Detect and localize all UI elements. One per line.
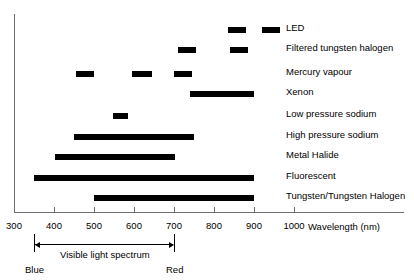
x-axis-tick <box>214 207 215 213</box>
x-axis-tick <box>174 207 175 213</box>
series-label: Metal Halide <box>286 149 339 160</box>
x-axis-tick-label: 700 <box>154 221 194 231</box>
x-axis-tick-label: 400 <box>34 221 74 231</box>
range-bar <box>74 134 194 140</box>
series-label: Tungsten/Tungsten Halogen <box>286 190 405 201</box>
series-label: Fluorescent <box>286 170 336 181</box>
range-bar <box>55 154 175 160</box>
range-bar <box>190 91 254 97</box>
x-axis-tick <box>254 207 255 213</box>
spectrum-blue-label: Blue <box>25 265 44 275</box>
x-axis-line <box>14 212 404 213</box>
x-axis-tick-label: 300 <box>0 221 34 231</box>
range-bar <box>94 195 254 201</box>
range-bar <box>34 175 254 181</box>
x-axis-tick-label: 800 <box>194 221 234 231</box>
range-bar <box>113 113 128 119</box>
range-bar <box>262 27 280 33</box>
x-axis-tick <box>54 207 55 213</box>
range-bar <box>178 47 196 53</box>
series-label: Low pressure sodium <box>286 108 376 119</box>
series-label: LED <box>286 22 304 33</box>
x-axis-tick <box>134 207 135 213</box>
x-axis-tick-label: 900 <box>234 221 274 231</box>
x-axis-tick-label: 500 <box>74 221 114 231</box>
spectrum-arrow-left <box>35 242 40 248</box>
spectrum-arrow-right <box>169 242 174 248</box>
y-axis-line <box>14 14 15 212</box>
spectrum-label: Visible light spectrum <box>60 250 150 260</box>
series-label: Xenon <box>286 86 313 97</box>
spectrum-red-label: Red <box>166 265 183 275</box>
range-bar <box>230 47 248 53</box>
x-axis-title: Wavelength (nm) <box>308 222 380 232</box>
range-bar <box>228 27 246 33</box>
range-bar <box>76 71 94 77</box>
range-bar <box>132 71 152 77</box>
series-label: Mercury vapour <box>286 66 352 77</box>
x-axis-tick-label: 600 <box>114 221 154 231</box>
wavelength-chart: LEDFiltered tungsten halogenMercury vapo… <box>0 0 414 280</box>
series-label: Filtered tungsten halogen <box>286 42 393 53</box>
spectrum-arrow-line <box>35 244 173 245</box>
spectrum-end-tick <box>174 234 175 252</box>
x-axis-tick <box>94 207 95 213</box>
x-axis-tick <box>294 207 295 213</box>
range-bar <box>174 71 192 77</box>
series-label: High pressure sodium <box>286 129 378 140</box>
